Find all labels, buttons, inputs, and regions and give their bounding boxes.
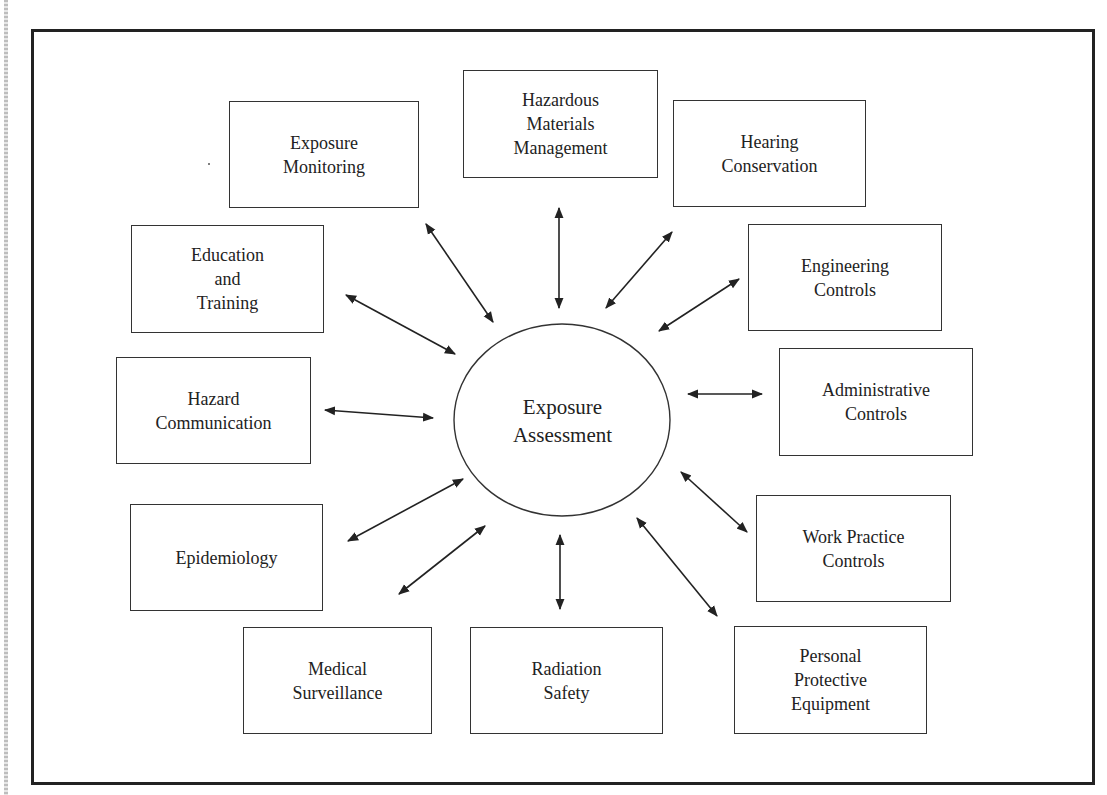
node-medical-surveillance: Medical Surveillance	[243, 627, 432, 734]
node-label: Materials	[527, 112, 595, 136]
node-exposure-monitoring: Exposure Monitoring	[229, 101, 419, 208]
arrow-exposure-monitoring	[426, 224, 493, 322]
node-label: Exposure	[290, 131, 358, 155]
node-label: Work Practice	[802, 525, 904, 549]
arrow-education-and-training	[346, 295, 455, 354]
node-label: Engineering	[801, 254, 889, 278]
center-label-line: Assessment	[513, 421, 612, 449]
arrow-epidemiology	[348, 479, 463, 541]
node-label: Controls	[814, 278, 876, 302]
node-label: Hazardous	[522, 88, 599, 112]
center-node-exposure-assessment: Exposure Assessment	[454, 324, 671, 517]
center-label-line: Exposure	[523, 393, 602, 421]
arrow-personal-protective-equipment	[637, 518, 717, 616]
node-epidemiology: Epidemiology	[130, 504, 323, 611]
node-label: Education	[191, 243, 264, 267]
node-label: Controls	[845, 402, 907, 426]
node-label: Training	[197, 291, 258, 315]
arrow-work-practice-controls	[681, 472, 747, 532]
node-label: Conservation	[722, 154, 818, 178]
node-label: Communication	[156, 411, 272, 435]
node-label: Medical	[308, 657, 367, 681]
stray-dot	[208, 163, 210, 165]
node-education-and-training: Education and Training	[131, 225, 324, 333]
node-work-practice-controls: Work Practice Controls	[756, 495, 951, 602]
node-hazardous-materials-management: Hazardous Materials Management	[463, 70, 658, 178]
node-label: Management	[514, 136, 608, 160]
node-label: Personal	[800, 644, 862, 668]
node-personal-protective-equipment: Personal Protective Equipment	[734, 626, 927, 734]
node-label: Protective	[794, 668, 867, 692]
node-label: Safety	[544, 681, 590, 705]
node-label: and	[215, 267, 241, 291]
node-label: Monitoring	[283, 155, 365, 179]
node-label: Controls	[822, 549, 884, 573]
arrow-hazard-communication	[325, 410, 433, 418]
arrow-hearing-conservation	[606, 232, 672, 308]
node-label: Hazard	[188, 387, 240, 411]
node-label: Equipment	[791, 692, 870, 716]
node-label: Hearing	[741, 130, 799, 154]
node-radiation-safety: Radiation Safety	[470, 627, 663, 734]
node-engineering-controls: Engineering Controls	[748, 224, 942, 331]
node-hazard-communication: Hazard Communication	[116, 357, 311, 464]
arrow-medical-surveillance	[399, 526, 485, 594]
node-label: Surveillance	[293, 681, 383, 705]
node-label: Radiation	[532, 657, 602, 681]
node-hearing-conservation: Hearing Conservation	[673, 100, 866, 207]
node-label: Administrative	[822, 378, 930, 402]
arrow-engineering-controls	[659, 279, 739, 331]
node-administrative-controls: Administrative Controls	[779, 348, 973, 456]
node-label: Epidemiology	[176, 546, 278, 570]
